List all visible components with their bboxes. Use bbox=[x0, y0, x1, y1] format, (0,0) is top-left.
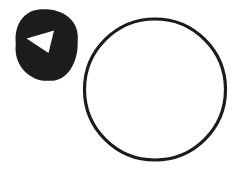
figure-canvas: Two geometric shapes on white background bbox=[0, 0, 242, 172]
blob-group bbox=[15, 9, 77, 81]
shapes-svg bbox=[0, 0, 242, 172]
